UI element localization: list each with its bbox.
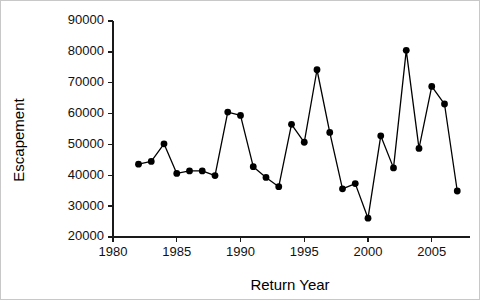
data-point-marker (365, 215, 372, 222)
data-point-marker (275, 183, 282, 190)
y-tick-label: 70000 (68, 74, 104, 89)
data-point-marker (441, 101, 448, 108)
data-point-marker (301, 139, 308, 146)
y-tick-label: 50000 (68, 136, 104, 151)
y-axis-ticks: 2000030000400005000060000700008000090000 (68, 12, 113, 243)
data-point-marker (390, 164, 397, 171)
escapement-line-chart: Escapement Return Year 20000300004000050… (0, 0, 481, 301)
data-series-escapement (135, 47, 461, 222)
series-line-escapement (139, 50, 458, 218)
y-tick-label: 60000 (68, 105, 104, 120)
x-axis-title: Return Year (250, 276, 329, 293)
y-tick-label: 80000 (68, 43, 104, 58)
data-point-marker (403, 47, 410, 54)
y-tick-label: 90000 (68, 12, 104, 27)
data-point-marker (212, 172, 219, 179)
x-tick-label: 1985 (162, 244, 191, 259)
data-point-marker (237, 112, 244, 119)
y-tick-label: 40000 (68, 167, 104, 182)
data-point-marker (224, 109, 231, 116)
x-tick-label: 1990 (226, 244, 255, 259)
x-tick-label: 1980 (99, 244, 128, 259)
x-axis-ticks: 198019851990199520002005 (99, 237, 447, 259)
data-point-marker (326, 129, 333, 136)
data-point-marker (339, 185, 346, 192)
data-point-marker (250, 163, 257, 170)
data-point-marker (148, 158, 155, 165)
data-point-marker (161, 140, 168, 147)
data-point-marker (377, 132, 384, 139)
data-point-marker (314, 66, 321, 73)
x-tick-label: 2005 (417, 244, 446, 259)
plot-area: Escapement Return Year 20000300004000050… (0, 0, 481, 301)
data-point-marker (199, 168, 206, 175)
data-point-marker (288, 121, 295, 128)
data-point-marker (428, 83, 435, 90)
x-tick-label: 1995 (290, 244, 319, 259)
data-point-marker (263, 174, 270, 181)
y-tick-label: 30000 (68, 198, 104, 213)
data-point-marker (173, 170, 180, 177)
data-point-marker (352, 180, 359, 187)
data-point-marker (135, 161, 142, 168)
data-point-marker (454, 188, 461, 195)
y-axis-title: Escapement (10, 97, 27, 181)
data-point-marker (186, 168, 193, 175)
data-point-marker (416, 145, 423, 152)
y-tick-label: 20000 (68, 228, 104, 243)
x-tick-label: 2000 (354, 244, 383, 259)
